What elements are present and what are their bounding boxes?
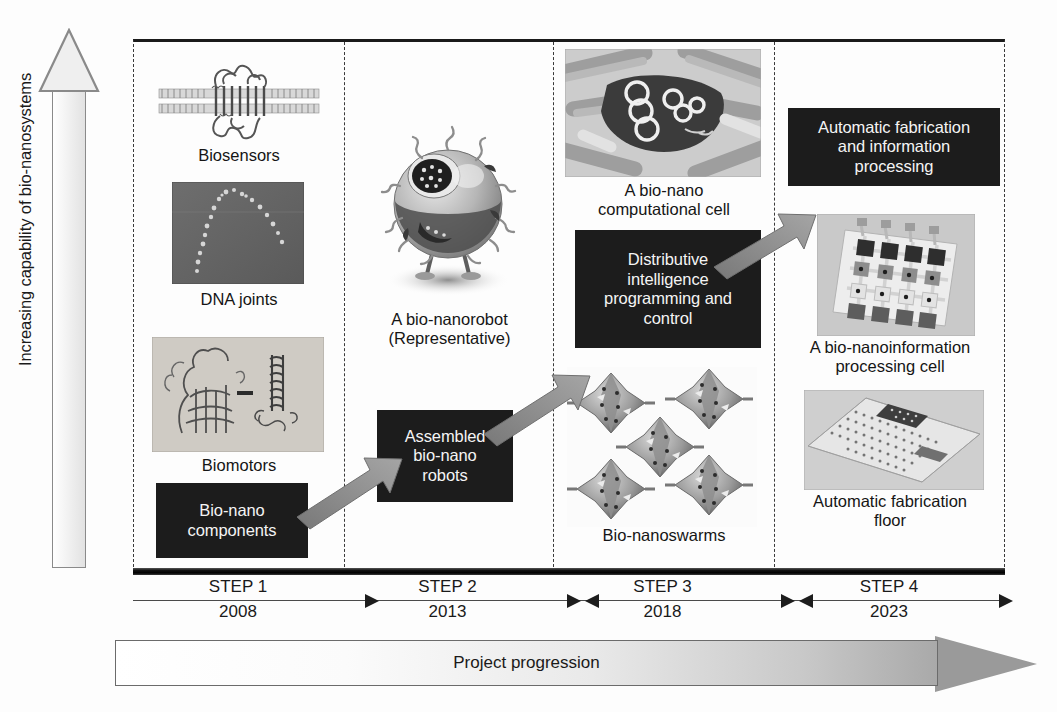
step-3-year: 2018 [552,600,773,623]
box-bio-nano-components: Bio-nano components [156,483,308,558]
box-distributive-intelligence: Distributive intelligence programming an… [575,230,761,348]
capability-arrow-head-icon [38,28,100,94]
caption-bio-nanoswarms: Bio-nanoswarms [559,526,769,545]
caption-biomotors: Biomotors [144,456,334,475]
caption-automatic-fabrication-floor: Automatic fabrication floor [776,492,1004,530]
capability-axis-label: Increasing capability of bio-nanosystems [16,0,35,455]
bio-nanorobot-render-image [372,114,524,304]
timeline-step-2: STEP 2 2013 [343,576,552,623]
bio-nanoswarms-image [567,367,757,527]
bio-nanoinformation-processing-cell-image [817,214,975,336]
timeline-step-1: STEP 1 2008 [133,576,343,623]
roadmap-plot-area: Biosensors [133,39,1005,567]
column-step1: Biosensors [134,42,344,567]
column-step2: A bio-nanorobot (Representative) Assembl… [344,42,553,567]
caption-bio-nanoinformation-cell: A bio-nanoinformation processing cell [776,338,1004,376]
step-4-name: STEP 4 [773,576,1005,597]
step-1-name: STEP 1 [133,576,343,597]
project-progression-label: Project progression [115,640,938,686]
timeline-top-rule [133,568,1005,575]
automatic-fabrication-floor-image [804,390,984,490]
capability-arrow [38,28,100,568]
timeline-step-4: STEP 4 2023 [773,576,1005,623]
step-2-year: 2013 [343,600,552,623]
caption-dna-joints: DNA joints [144,290,334,309]
step-4-year: 2023 [773,600,1005,623]
timeline-step-3: STEP 3 2018 [552,576,773,623]
step-3-name: STEP 3 [552,576,773,597]
project-progression-arrowhead-icon [935,636,1037,692]
dna-joints-afm-image [172,182,304,284]
project-progression-arrow: Project progression [115,636,1040,693]
membrane-protein-biosensor-image [154,56,324,146]
caption-computational-cell: A bio-nano computational cell [559,181,769,219]
bio-nano-computational-cell-image [565,49,761,177]
caption-bio-nanorobot: A bio-nanorobot (Representative) [352,310,547,348]
step-2-name: STEP 2 [343,576,552,597]
biomotors-molecular-image [152,337,324,452]
roadmap-figure: Increasing capability of bio-nanosystems [0,0,1057,712]
capability-arrow-shaft [52,90,86,568]
column-step3: A bio-nano computational cell Distributi… [553,42,774,567]
box-automatic-fabrication-information-processing: Automatic fabrication and information pr… [788,108,1000,186]
step-1-year: 2008 [133,600,343,623]
column-step4: Automatic fabrication and information pr… [774,42,1006,567]
box-assembled-bio-nano-robots: Assembled bio-nano robots [377,410,513,502]
caption-biosensors: Biosensors [144,146,334,165]
